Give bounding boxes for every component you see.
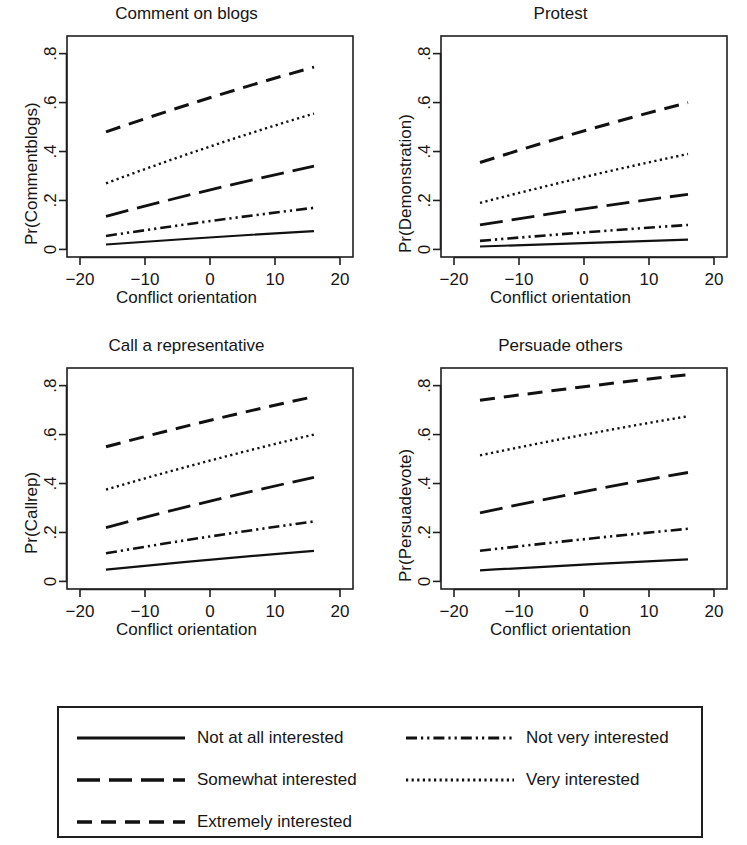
svg-text:.4: .4 bbox=[416, 476, 435, 490]
svg-text:0: 0 bbox=[205, 602, 214, 621]
svg-text:0: 0 bbox=[579, 270, 588, 289]
series-line bbox=[480, 194, 688, 225]
svg-text:0: 0 bbox=[416, 245, 435, 254]
series-line bbox=[480, 240, 688, 247]
svg-text:.8: .8 bbox=[42, 47, 61, 61]
series-line bbox=[106, 435, 314, 490]
svg-text:.6: .6 bbox=[42, 95, 61, 109]
series-line bbox=[480, 529, 688, 551]
svg-text:−20: −20 bbox=[440, 270, 469, 289]
series-line bbox=[480, 375, 688, 401]
series-line bbox=[480, 559, 688, 570]
panel-protest: Protest Pr(Demonstration) −20−10010200.2… bbox=[374, 0, 747, 325]
svg-text:0: 0 bbox=[205, 270, 214, 289]
svg-text:20: 20 bbox=[331, 602, 350, 621]
svg-text:.4: .4 bbox=[42, 144, 61, 158]
svg-text:10: 10 bbox=[266, 602, 285, 621]
svg-text:20: 20 bbox=[331, 270, 350, 289]
x-axis-label: Conflict orientation bbox=[0, 620, 373, 640]
legend-item-label: Extremely interested bbox=[197, 812, 352, 832]
svg-text:.8: .8 bbox=[416, 379, 435, 393]
legend-item[interactable]: Not at all interested bbox=[75, 724, 343, 752]
legend: Not at all interestedNot very interested… bbox=[57, 706, 703, 838]
svg-text:.2: .2 bbox=[416, 193, 435, 207]
legend-item[interactable]: Very interested bbox=[404, 766, 639, 794]
x-axis-label: Conflict orientation bbox=[374, 620, 747, 640]
legend-line-swatch bbox=[404, 729, 516, 747]
svg-text:0: 0 bbox=[42, 577, 61, 586]
legend-item-label: Very interested bbox=[526, 770, 639, 790]
series-line bbox=[480, 154, 688, 203]
svg-text:.4: .4 bbox=[42, 476, 61, 490]
legend-line-swatch bbox=[75, 813, 187, 831]
svg-text:10: 10 bbox=[266, 270, 285, 289]
series-line bbox=[106, 397, 314, 447]
series-line bbox=[106, 551, 314, 570]
svg-text:0: 0 bbox=[416, 577, 435, 586]
svg-text:.6: .6 bbox=[42, 427, 61, 441]
series-line bbox=[106, 521, 314, 553]
svg-text:0: 0 bbox=[42, 245, 61, 254]
series-line bbox=[480, 103, 688, 163]
svg-text:.4: .4 bbox=[416, 144, 435, 158]
x-axis-label: Conflict orientation bbox=[0, 288, 373, 308]
svg-text:.6: .6 bbox=[416, 95, 435, 109]
svg-text:.2: .2 bbox=[42, 525, 61, 539]
svg-text:−10: −10 bbox=[131, 602, 160, 621]
svg-text:−20: −20 bbox=[66, 270, 95, 289]
svg-text:20: 20 bbox=[705, 270, 724, 289]
svg-text:−20: −20 bbox=[66, 602, 95, 621]
legend-line-swatch bbox=[75, 771, 187, 789]
plot-area: −20−10010200.2.4.6.8 bbox=[374, 332, 747, 632]
plot-area: −20−10010200.2.4.6.8 bbox=[0, 0, 373, 300]
svg-text:.8: .8 bbox=[416, 47, 435, 61]
panel-call-a-representative: Call a representative Pr(Callrep) −20−10… bbox=[0, 332, 373, 657]
svg-text:10: 10 bbox=[640, 270, 659, 289]
legend-line-swatch bbox=[75, 729, 187, 747]
series-line bbox=[106, 231, 314, 244]
svg-text:20: 20 bbox=[705, 602, 724, 621]
series-line bbox=[106, 477, 314, 527]
plot-frame bbox=[67, 36, 353, 257]
series-line bbox=[480, 225, 688, 241]
svg-text:−10: −10 bbox=[505, 270, 534, 289]
multi-panel-figure: Comment on blogs Pr(Commentblogs) −20−10… bbox=[0, 0, 747, 845]
plot-area: −20−10010200.2.4.6.8 bbox=[0, 332, 373, 632]
legend-item[interactable]: Extremely interested bbox=[75, 808, 352, 836]
svg-text:.8: .8 bbox=[42, 379, 61, 393]
legend-item-label: Not at all interested bbox=[197, 728, 343, 748]
panel-persuade-others: Persuade others Pr(Persuadevote) −20−100… bbox=[374, 332, 747, 657]
svg-text:−20: −20 bbox=[440, 602, 469, 621]
svg-text:−10: −10 bbox=[505, 602, 534, 621]
series-line bbox=[480, 416, 688, 455]
svg-text:.6: .6 bbox=[416, 427, 435, 441]
svg-text:10: 10 bbox=[640, 602, 659, 621]
plot-area: −20−10010200.2.4.6.8 bbox=[374, 0, 747, 300]
svg-text:.2: .2 bbox=[42, 193, 61, 207]
svg-text:0: 0 bbox=[579, 602, 588, 621]
panel-comment-on-blogs: Comment on blogs Pr(Commentblogs) −20−10… bbox=[0, 0, 373, 325]
series-line bbox=[480, 473, 688, 513]
x-axis-label: Conflict orientation bbox=[374, 288, 747, 308]
legend-item[interactable]: Not very interested bbox=[404, 724, 669, 752]
legend-item-label: Somewhat interested bbox=[197, 770, 357, 790]
svg-text:.2: .2 bbox=[416, 525, 435, 539]
legend-item[interactable]: Somewhat interested bbox=[75, 766, 357, 794]
svg-text:−10: −10 bbox=[131, 270, 160, 289]
series-line bbox=[106, 208, 314, 236]
legend-line-swatch bbox=[404, 771, 516, 789]
legend-item-label: Not very interested bbox=[526, 728, 669, 748]
series-line bbox=[106, 166, 314, 216]
